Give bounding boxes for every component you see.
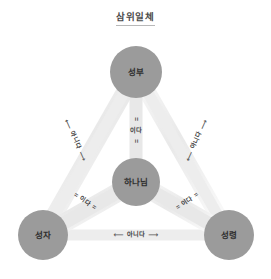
arrow-right-icon: ⟶ xyxy=(148,231,158,238)
node-father-label: 성부 xyxy=(128,67,145,77)
edge-label-god-son-text: 이다 xyxy=(78,194,93,208)
edge-label-father-spirit-text: 아니다 xyxy=(189,130,204,150)
edge-label-father-god: = 이다 = xyxy=(111,108,161,152)
equals-icon: = xyxy=(174,203,181,211)
node-son[interactable]: 성자 xyxy=(18,210,68,260)
edge-label-father-god-text: 이다 xyxy=(130,126,142,134)
equals-icon: = xyxy=(90,203,97,211)
edge-label-god-spirit-text: 이다 xyxy=(180,194,195,208)
arrow-right-icon: ⟶ xyxy=(198,118,209,130)
arrow-left-icon: ⟵ xyxy=(64,118,75,130)
arrow-right-icon: ⟶ xyxy=(78,150,89,162)
node-father[interactable]: 성부 xyxy=(110,46,162,98)
equals-icon: = xyxy=(132,117,140,120)
arrow-left-icon: ⟵ xyxy=(184,150,195,162)
arrow-left-icon: ⟵ xyxy=(113,231,123,238)
trinity-diagram: 삼위일체 xyxy=(0,0,271,279)
node-spirit-label: 성령 xyxy=(221,230,238,240)
edge-label-son-spirit: ⟵ 아니다 ⟶ xyxy=(75,227,197,241)
edge-label-father-son-text: 아니다 xyxy=(69,130,84,150)
node-spirit[interactable]: 성령 xyxy=(204,210,254,260)
node-god-label: 하나님 xyxy=(124,177,149,187)
node-son-label: 성자 xyxy=(35,230,52,240)
node-god[interactable]: 하나님 xyxy=(112,158,160,206)
equals-icon: = xyxy=(192,191,199,199)
edge-label-son-spirit-text: 아니다 xyxy=(127,230,146,238)
equals-icon: = xyxy=(132,139,140,142)
